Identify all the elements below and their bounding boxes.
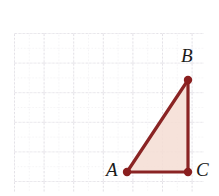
vertex-dot-c — [184, 168, 192, 176]
vertex-dot-b — [184, 76, 192, 84]
vertex-label-c: C — [196, 160, 209, 179]
vertex-label-b: B — [181, 46, 193, 65]
vertex-dot-a — [123, 168, 131, 176]
geometry-figure: A B C — [0, 0, 219, 196]
vertex-label-a: A — [106, 160, 118, 179]
